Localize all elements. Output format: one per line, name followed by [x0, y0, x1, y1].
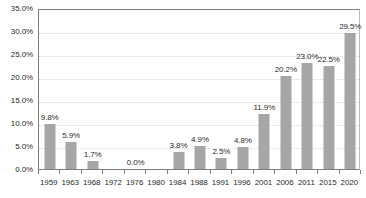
bar-slot: 4.9% — [189, 10, 210, 169]
x-axis-tick-mark — [274, 170, 275, 174]
x-axis-tick-label: 1959 — [40, 178, 57, 187]
bar[interactable] — [259, 114, 270, 169]
x-axis-tick-label: 1963 — [61, 178, 78, 187]
x-axis-tick-mark — [210, 170, 211, 174]
x-axis-tick-mark — [253, 170, 254, 174]
bar-slot: 9.8% — [39, 10, 60, 169]
bar-slot — [146, 10, 167, 169]
x-axis-tick-label: 1991 — [212, 178, 229, 187]
bar-value-label: 0.0% — [127, 159, 145, 167]
x-axis-tick-label: 1972 — [104, 178, 121, 187]
bar-slot: 11.9% — [254, 10, 275, 169]
bar[interactable] — [323, 66, 334, 170]
y-axis-tick-label: 5.0% — [15, 143, 33, 151]
bar-value-label: 22.5% — [318, 56, 340, 64]
bar[interactable] — [44, 124, 55, 169]
x-axis-tick-label: 2006 — [276, 178, 293, 187]
x-axis-tick-mark — [339, 170, 340, 174]
x-axis-tick-mark — [317, 170, 318, 174]
x-axis-tick-label: 2020 — [341, 178, 358, 187]
y-axis-tick-label: 15.0% — [11, 97, 33, 105]
bar-slot: 22.5% — [318, 10, 339, 169]
bar-series: 9.8%5.9%1.7%0.0%3.8%4.9%2.5%4.8%11.9%20.… — [39, 10, 359, 169]
x-axis-tick-label: 2011 — [298, 178, 315, 187]
bar-value-label: 4.8% — [234, 137, 252, 145]
x-axis-tick-mark — [102, 170, 103, 174]
x-axis-tick-label: 1976 — [126, 178, 143, 187]
x-axis-tick-mark — [188, 170, 189, 174]
y-axis-tick-label: 30.0% — [11, 28, 33, 36]
bar-value-label: 29.5% — [339, 23, 361, 31]
bar[interactable] — [345, 33, 356, 169]
y-axis-tick-label: 20.0% — [11, 74, 33, 82]
bar[interactable] — [302, 63, 313, 169]
x-axis-tick-labels: 1959196319681972197619801984198819911996… — [38, 170, 360, 198]
y-axis-tick-label: 25.0% — [11, 51, 33, 59]
bar[interactable] — [66, 142, 77, 169]
x-axis-tick-mark — [296, 170, 297, 174]
bar-slot: 5.9% — [60, 10, 81, 169]
bar[interactable] — [280, 76, 291, 169]
bar-value-label: 4.9% — [191, 136, 209, 144]
x-axis-tick-mark — [38, 170, 39, 174]
x-axis-tick-label: 2001 — [255, 178, 272, 187]
bar-slot: 2.5% — [211, 10, 232, 169]
bar[interactable] — [173, 152, 184, 169]
x-axis-tick-label: 1996 — [233, 178, 250, 187]
bar[interactable] — [87, 161, 98, 169]
bar-slot: 23.0% — [297, 10, 318, 169]
y-axis-tick-labels: 0.0%5.0%10.0%15.0%20.0%25.0%30.0%35.0% — [0, 0, 36, 198]
plot-area: 9.8%5.9%1.7%0.0%3.8%4.9%2.5%4.8%11.9%20.… — [38, 9, 360, 170]
x-axis-tick-label: 1980 — [147, 178, 164, 187]
x-axis-tick-mark — [167, 170, 168, 174]
bar-value-label: 2.5% — [213, 148, 231, 156]
bar-slot: 4.8% — [232, 10, 253, 169]
bar-slot: 1.7% — [82, 10, 103, 169]
x-axis-tick-mark — [145, 170, 146, 174]
bar-slot: 3.8% — [168, 10, 189, 169]
bar-value-label: 23.0% — [296, 53, 318, 61]
y-axis-tick-label: 0.0% — [15, 166, 33, 174]
x-axis-tick-mark — [231, 170, 232, 174]
bar-value-label: 11.9% — [254, 104, 276, 112]
bar-value-label: 1.7% — [84, 151, 102, 159]
bar-slot: 20.2% — [275, 10, 296, 169]
bar-slot: 0.0% — [125, 10, 146, 169]
x-axis-tick-label: 2015 — [319, 178, 336, 187]
y-axis-tick-label: 10.0% — [11, 120, 33, 128]
y-axis-tick-label: 35.0% — [11, 5, 33, 13]
bar[interactable] — [237, 147, 248, 169]
bar-value-label: 9.8% — [41, 114, 59, 122]
x-axis-tick-mark — [360, 170, 361, 174]
x-axis-tick-label: 1984 — [169, 178, 186, 187]
x-axis-tick-mark — [81, 170, 82, 174]
bar-value-label: 20.2% — [275, 66, 297, 74]
x-axis-tick-mark — [124, 170, 125, 174]
x-axis-tick-mark — [59, 170, 60, 174]
bar-value-label: 5.9% — [62, 132, 80, 140]
bar[interactable] — [194, 146, 205, 169]
x-axis-tick-label: 1988 — [190, 178, 207, 187]
bar-value-label: 3.8% — [170, 142, 188, 150]
bar-slot — [103, 10, 124, 169]
bar[interactable] — [216, 158, 227, 170]
x-axis-tick-label: 1968 — [83, 178, 100, 187]
bar-chart: 0.0%5.0%10.0%15.0%20.0%25.0%30.0%35.0% 9… — [0, 0, 366, 198]
bar-slot: 29.5% — [340, 10, 361, 169]
